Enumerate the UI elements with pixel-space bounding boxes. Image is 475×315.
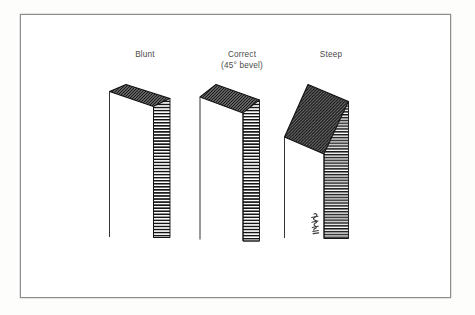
caption-blunt-label: Blunt [135,50,155,59]
caption-correct: Correct (45° bevel) [196,50,288,71]
illustration-figure: Blunt Correct (45° bevel) Steep [0,0,475,315]
blunt-shaft-wall [154,99,171,238]
correct-shaft-wall [243,100,260,241]
specimen-blunt [110,85,171,238]
specimen-correct [200,85,260,242]
caption-correct-label: Correct [228,50,256,59]
caption-steep-label: Steep [320,50,342,59]
artist-signature [312,214,319,234]
caption-steep: Steep [296,50,366,61]
caption-correct-sublabel: (45° bevel) [196,61,288,72]
needle-bevel-drawing [0,0,475,315]
caption-blunt: Blunt [110,50,180,61]
